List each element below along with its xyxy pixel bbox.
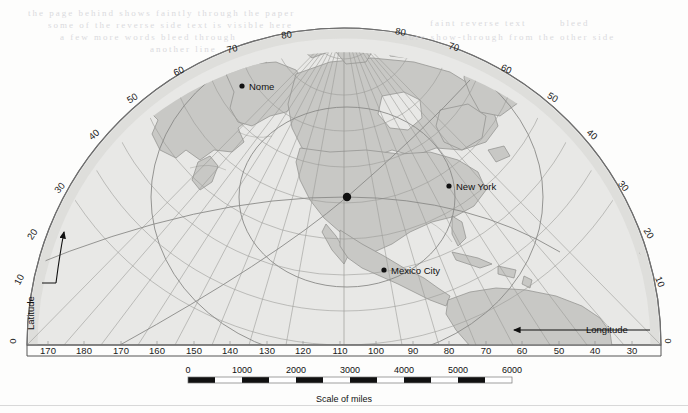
scale-bar-segment: [269, 377, 296, 383]
longitude-tick-label: 150: [186, 345, 202, 356]
scale-tick-label: 6000: [502, 365, 522, 375]
scale-bar-segment: [323, 377, 350, 383]
scale-bar-segment: [431, 377, 458, 383]
longitude-tick-label: 100: [368, 345, 384, 356]
scale-bar-group: 0100020003000400050006000 Scale of miles: [185, 365, 522, 404]
scale-bar-segment: [485, 377, 512, 383]
scale-tick-label: 4000: [394, 365, 414, 375]
city-label: Nome: [249, 81, 274, 92]
scale-bar-segments: [188, 377, 512, 383]
page-bottom-rule: [0, 405, 688, 406]
latitude-tick-label: 30: [52, 180, 67, 195]
longitude-tick-label: 130: [259, 345, 275, 356]
latitude-tick-label: 40: [585, 127, 600, 142]
latitude-tick-label: 80: [281, 28, 293, 40]
scale-tick-label: 2000: [286, 365, 306, 375]
scale-bar-segment: [377, 377, 404, 383]
longitude-tick-label: 180: [76, 345, 92, 356]
scale-tick-label: 0: [185, 365, 190, 375]
city-dot: [381, 267, 386, 272]
latitude-tick-label: 10: [12, 272, 27, 287]
longitude-tick-label: 60: [517, 345, 528, 356]
city-label: Mexico City: [391, 265, 440, 276]
city-marker[interactable]: Mexico City: [381, 265, 440, 276]
scale-caption: Scale of miles: [316, 394, 373, 404]
city-dot: [446, 183, 451, 188]
longitude-tick-label: 110: [332, 345, 347, 356]
latitude-tick-label: 50: [125, 91, 140, 106]
scale-tick-label: 3000: [340, 365, 360, 375]
longitude-tick-label: 140: [222, 345, 238, 356]
latitude-tick-label: 20: [642, 226, 657, 241]
scale-bar-segment: [188, 377, 215, 383]
longitude-tick-label: 80: [444, 345, 455, 356]
scale-tick-label: 1000: [232, 365, 252, 375]
scale-bar-segment: [350, 377, 377, 383]
scale-bar-tick-labels: 0100020003000400050006000: [185, 365, 522, 375]
latitude-tick-label: 40: [86, 127, 101, 142]
scale-bar-segment: [458, 377, 485, 383]
map-page: the page behind shows faintly through th…: [0, 0, 688, 413]
longitude-tick-label: 160: [149, 345, 165, 356]
longitude-tick-label: 170: [113, 345, 129, 356]
map-figure: NomeNew YorkMexico City 0102030405060708…: [0, 0, 688, 413]
longitude-tick-label: 90: [408, 345, 419, 356]
latitude-axis-label: Latitude: [25, 296, 36, 330]
longitude-axis-label: Longitude: [586, 324, 628, 335]
longitude-tick-label: 170: [40, 345, 56, 356]
city-label: New York: [456, 181, 496, 192]
latitude-tick-label: 0: [7, 338, 18, 343]
longitude-tick-label: 30: [627, 345, 638, 356]
land-europe-sliver: [606, 140, 640, 176]
longitude-tick-label: 50: [554, 345, 565, 356]
longitude-tick-label: 40: [590, 345, 601, 356]
scale-bar-segment: [404, 377, 431, 383]
map-center-point[interactable]: [343, 193, 351, 201]
scale-tick-label: 5000: [448, 365, 468, 375]
latitude-tick-label: 0: [663, 338, 674, 343]
longitude-tick-label-layer: 1701801701601501401301201101009080706050…: [40, 345, 637, 356]
scale-bar-segment: [242, 377, 269, 383]
longitude-tick-label: 120: [295, 345, 311, 356]
longitude-tick-label: 70: [481, 345, 492, 356]
scale-bar-segment: [215, 377, 242, 383]
city-dot: [239, 83, 244, 88]
latitude-tick-label: 20: [25, 227, 40, 242]
scale-bar-segment: [296, 377, 323, 383]
latitude-tick-label: 80: [394, 25, 406, 38]
